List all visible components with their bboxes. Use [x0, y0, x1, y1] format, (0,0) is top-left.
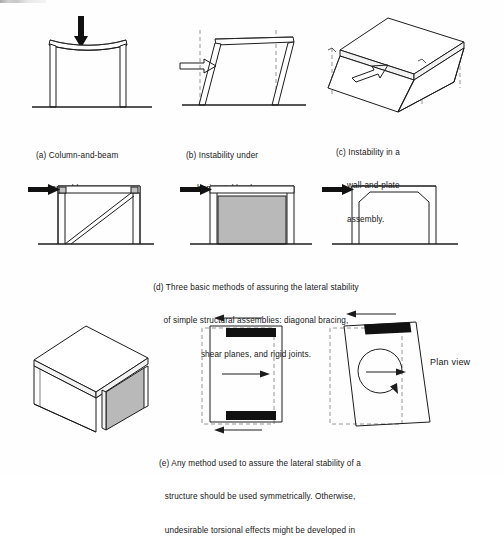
diagram-column-and-beam-assembly	[28, 14, 178, 120]
horizontal-load-arrow-black	[28, 184, 60, 195]
horizontal-load-arrow-black	[180, 184, 212, 195]
diagram-racked-frame	[178, 14, 328, 120]
caption-a-line1: (a) Column-and-beam	[36, 150, 176, 161]
applied-force-arrow-right	[222, 371, 270, 378]
diagonal-brace	[65, 193, 134, 244]
horizontal-load-arrow-black	[322, 184, 354, 195]
diagram-symmetric-plan	[188, 312, 318, 434]
diagram-box-with-single-shear-wall	[18, 312, 178, 438]
caption-e: (e) Any method used to assure the latera…	[112, 435, 408, 539]
shear-wall-bottom	[226, 411, 276, 420]
caption-e-line3: undesirable torsional effects might be d…	[112, 525, 408, 536]
plan-view-label: Plan view	[430, 357, 470, 367]
diagram-wall-and-plate-assembly	[318, 8, 498, 120]
vertical-load-arrow-down	[74, 16, 88, 48]
caption-d-line1: (d) Three basic methods of assuring the …	[108, 282, 404, 293]
diagram-rigid-joints	[314, 174, 464, 256]
torsion-rotation-arrow	[358, 349, 406, 394]
caption-e-line2: structure should be used symmetrically. …	[112, 491, 408, 502]
shear-wall-top	[226, 328, 276, 337]
shear-panel	[218, 196, 286, 244]
caption-b-line1: (b) Instability under	[186, 150, 331, 161]
reaction-arrow-top-left	[346, 311, 396, 318]
diagram-diagonal-bracing	[18, 174, 158, 256]
scan-edge-artifact	[0, 0, 46, 3]
diagram-torsional-plan	[318, 306, 458, 434]
dashed-original-plan	[330, 328, 402, 424]
caption-c-line1: (c) Instability in a	[336, 147, 486, 158]
reaction-arrow-bottom-left	[214, 427, 262, 434]
reaction-arrow-top-left	[214, 315, 262, 322]
diagram-shear-panel	[172, 174, 318, 256]
caption-e-line1: (e) Any method used to assure the latera…	[112, 458, 408, 469]
rigid-joint-haunch-profile	[359, 192, 429, 244]
plan-outline-rotated	[344, 322, 430, 426]
